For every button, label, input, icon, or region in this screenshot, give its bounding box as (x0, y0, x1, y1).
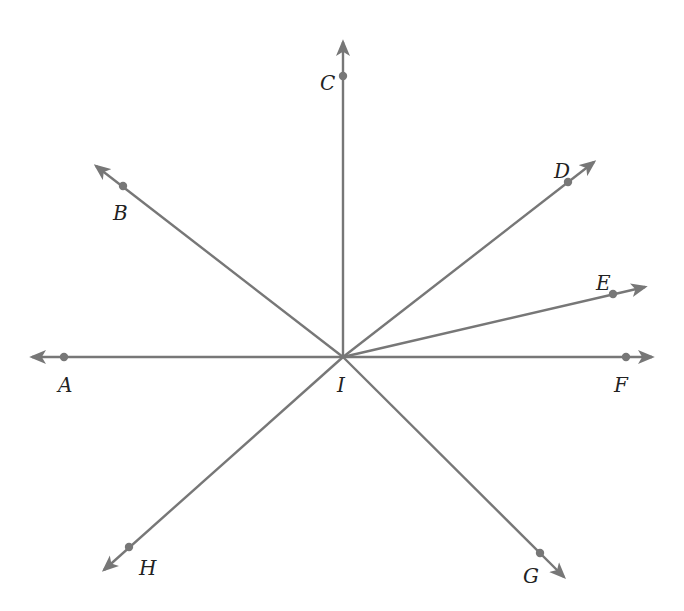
point-label-C: C (320, 71, 335, 95)
rays-diagram: ABCDEFGH I (0, 0, 684, 611)
point-label-D: D (553, 159, 570, 183)
ray-IC (339, 42, 347, 357)
point-label-I: I (336, 373, 346, 397)
point-dot-A (60, 353, 68, 361)
point-dot-G (536, 549, 544, 557)
point-dot-F (622, 353, 630, 361)
point-dot-H (125, 543, 133, 551)
point-dot-C (339, 72, 347, 80)
ray-IF (343, 353, 652, 361)
point-label-A: A (56, 373, 72, 397)
ray-IB (96, 166, 343, 357)
ray-line (104, 357, 343, 570)
point-label-B: B (112, 201, 128, 225)
point-label-H: H (138, 556, 157, 580)
rays-layer (32, 42, 652, 577)
ray-IG (343, 357, 564, 577)
point-label-G: G (523, 564, 539, 588)
ray-line (96, 166, 343, 357)
ray-line (343, 357, 564, 577)
point-label-E: E (595, 271, 611, 295)
point-dot-B (119, 182, 127, 190)
ray-IH (104, 357, 343, 570)
ray-IA (32, 353, 343, 361)
point-label-F: F (613, 373, 629, 397)
